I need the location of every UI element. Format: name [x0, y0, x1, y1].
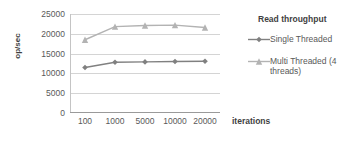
series-plot — [70, 14, 220, 113]
data-point-marker — [172, 59, 178, 65]
y-axis-title-label: op/sec — [13, 6, 22, 86]
legend-item[interactable]: Multi Threaded (4 threads) — [248, 56, 359, 76]
triangle-marker-icon — [248, 56, 270, 67]
chart-container: op/sec 0500010000150002000025000 1001000… — [0, 0, 359, 145]
plot-area — [70, 14, 220, 113]
legend-label: Single Threaded — [270, 34, 332, 44]
y-axis-tick-labels: 0500010000150002000025000 — [24, 0, 68, 145]
y-axis-tick-label: 5000 — [46, 88, 65, 98]
diamond-marker-icon — [248, 34, 270, 45]
legend-items: Single ThreadedMulti Threaded (4 threads… — [248, 34, 359, 76]
legend-label: Multi Threaded (4 threads) — [270, 56, 356, 76]
y-axis-title: op/sec — [13, 6, 22, 46]
legend-title: Read throughput — [258, 14, 359, 24]
y-axis-tick-label: 0 — [60, 108, 65, 118]
legend-item[interactable]: Single Threaded — [248, 34, 359, 45]
x-axis-title: iterations — [232, 116, 270, 126]
y-axis-tick-label: 10000 — [41, 68, 65, 78]
x-axis-tick-labels: 100100050001000020000 — [70, 116, 220, 130]
legend: Read throughput Single ThreadedMulti Thr… — [248, 14, 359, 87]
data-point-marker — [202, 59, 208, 65]
x-axis-tick-label: 100 — [78, 116, 92, 126]
x-axis-tick-label: 10000 — [163, 116, 187, 126]
y-axis-tick-label: 15000 — [41, 49, 65, 59]
data-point-marker — [82, 65, 88, 71]
x-axis-tick-label: 5000 — [136, 116, 155, 126]
data-point-marker — [112, 60, 118, 66]
y-axis-tick-label: 25000 — [41, 9, 65, 19]
data-point-marker — [82, 37, 88, 43]
x-axis-tick-label: 1000 — [106, 116, 125, 126]
x-axis-tick-label: 20000 — [193, 116, 217, 126]
y-axis-tick-label: 20000 — [41, 29, 65, 39]
data-point-marker — [142, 59, 148, 65]
